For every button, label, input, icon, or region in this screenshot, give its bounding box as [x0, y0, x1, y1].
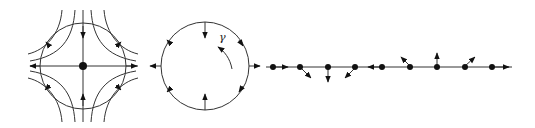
point	[462, 64, 468, 70]
point	[379, 64, 385, 70]
gamma-curve-arrow	[218, 47, 232, 69]
point	[489, 64, 495, 70]
point	[407, 64, 413, 70]
saddle-point	[79, 62, 87, 70]
circle-with-loop	[150, 22, 260, 110]
gamma-label: γ	[219, 31, 226, 44]
arrow-down-right	[301, 68, 311, 78]
point	[434, 64, 440, 70]
saddle-phase-portrait	[28, 10, 138, 122]
point	[270, 64, 276, 70]
point	[325, 64, 331, 70]
figure: γ	[0, 0, 535, 128]
point	[297, 64, 303, 70]
point	[352, 64, 358, 70]
